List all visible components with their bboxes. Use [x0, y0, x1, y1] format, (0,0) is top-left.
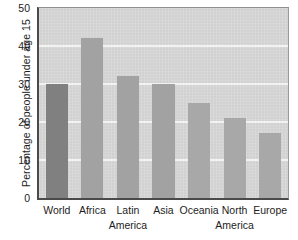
x-axis-tick-labels: WorldAfricaLatinAmericaAsiaOceaniaNorthA… — [37, 200, 289, 240]
x-axis-label-europe: Europe — [247, 203, 293, 218]
x-axis-label-line1: North — [222, 204, 248, 216]
bar-asia — [152, 84, 174, 198]
x-axis-label-line2: America — [212, 218, 258, 233]
bar-world — [46, 84, 68, 198]
bar-north-america — [224, 118, 246, 198]
y-axis-tick-labels: 01020304050 — [0, 0, 34, 240]
x-axis-label-line1: Asia — [153, 204, 173, 216]
bar-chart: Percentage of people under age 15 010203… — [0, 0, 298, 240]
y-axis-tick-0: 0 — [24, 192, 30, 204]
x-axis-label-line1: Africa — [79, 204, 106, 216]
bar-oceania — [188, 103, 210, 198]
plot-inner — [39, 8, 288, 198]
y-axis-tick-30: 30 — [18, 78, 30, 90]
x-axis-label-line1: Europe — [253, 204, 287, 216]
y-axis-tick-20: 20 — [18, 116, 30, 128]
bar-europe — [259, 133, 281, 198]
y-axis-tick-10: 10 — [18, 154, 30, 166]
x-axis-label-line1: World — [43, 204, 70, 216]
bar-latin-america — [117, 76, 139, 198]
x-axis-label-line1: Latin — [117, 204, 140, 216]
bar-africa — [81, 38, 103, 198]
plot-area — [37, 7, 289, 200]
y-axis-tick-40: 40 — [18, 40, 30, 52]
x-axis-label-line2: America — [105, 218, 151, 233]
gridline-40 — [39, 45, 288, 47]
y-axis-tick-50: 50 — [18, 2, 30, 14]
